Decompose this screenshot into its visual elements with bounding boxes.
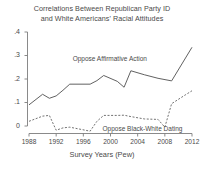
x-axis-tick-label: 2004 — [125, 138, 151, 145]
chart-container: Correlations Between Republican Party ID… — [0, 0, 204, 170]
x-axis-tick-label: 2000 — [98, 138, 124, 145]
series-annotation-label: Oppose Black-White Dating — [103, 125, 183, 132]
y-axis-tick-label: 0 — [6, 122, 20, 129]
y-axis-tick-label: .4 — [6, 28, 20, 35]
x-axis-tick-label: 1988 — [16, 138, 42, 145]
x-axis-tick-label: 2012 — [179, 138, 204, 145]
x-axis-title: Survey Years (Pew) — [0, 150, 204, 159]
x-axis-tick-label: 1996 — [70, 138, 96, 145]
y-axis-tick-label: .2 — [6, 75, 20, 82]
x-axis-tick-label: 1992 — [43, 138, 69, 145]
axes — [25, 32, 193, 137]
x-axis-tick-label: 2008 — [152, 138, 178, 145]
y-axis-tick-label: .3 — [6, 51, 20, 58]
y-axis-tick-label: .1 — [6, 98, 20, 105]
series-annotation-label: Oppose Affirmative Action — [73, 55, 147, 62]
